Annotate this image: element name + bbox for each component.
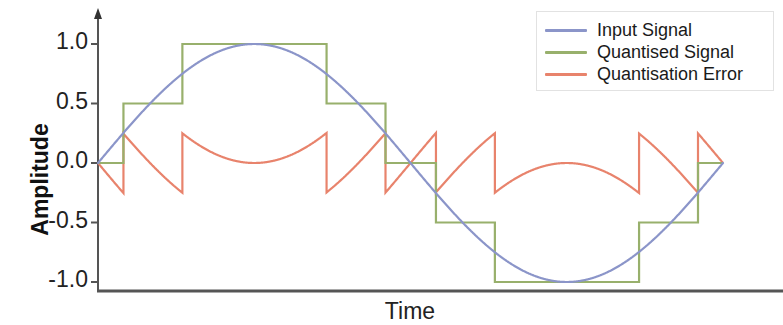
chart-figure: 1.00.50.0-0.5-1.0 Amplitude Time Input S… [0, 0, 783, 325]
y-axis-arrow-icon [94, 8, 102, 19]
legend-label-input-signal: Input Signal [597, 20, 692, 41]
legend-item-quantised-signal: Quantised Signal [545, 41, 765, 63]
legend-item-input-signal: Input Signal [545, 19, 765, 41]
x-axis-label: Time [97, 298, 723, 325]
legend-label-quantised-signal: Quantised Signal [597, 42, 734, 63]
legend-swatch-quantised-signal [545, 51, 587, 54]
legend-swatch-quantisation-error [545, 73, 587, 76]
legend-item-quantisation-error: Quantisation Error [545, 63, 765, 85]
legend-label-quantisation-error: Quantisation Error [597, 64, 743, 85]
chart-legend: Input Signal Quantised Signal Quantisati… [536, 11, 774, 91]
y-tick-label: 1.0 [0, 30, 88, 53]
y-axis-label: Amplitude [27, 60, 54, 300]
legend-swatch-input-signal [545, 29, 587, 32]
